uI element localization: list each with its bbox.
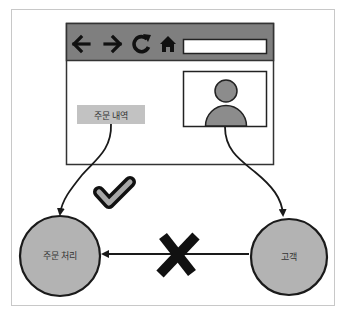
- address-bar-input[interactable]: [184, 40, 267, 54]
- browser-window: 주문 내역: [67, 24, 274, 165]
- diagram-canvas: 주문 내역 주문 처리 고객: [0, 0, 343, 313]
- order-history-button[interactable]: 주문 내역: [77, 105, 145, 124]
- order-history-label: 주문 내역: [94, 111, 129, 121]
- node-customer[interactable]: 고객: [251, 219, 327, 295]
- node-customer-label: 고객: [281, 252, 297, 262]
- node-order-processing-label: 주문 처리: [43, 250, 78, 261]
- profile-panel[interactable]: [184, 72, 267, 127]
- node-order-processing[interactable]: 주문 처리: [20, 216, 100, 296]
